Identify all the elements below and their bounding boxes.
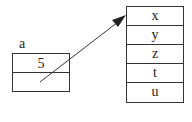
pointer-arrow	[0, 0, 192, 122]
